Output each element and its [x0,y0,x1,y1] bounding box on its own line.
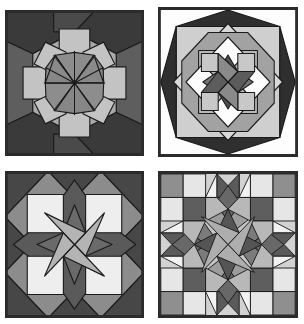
quilt-art-3 [5,171,144,318]
quilt-block-lemoyne-star [5,171,144,318]
quilt-block-carpenters-wheel [158,7,298,157]
quilt-block-gallery [0,0,304,324]
quilt-block-broken-star [158,171,298,318]
quilt-block-dutch-rose-pinwheel [5,10,144,156]
quilt-art-1 [5,10,144,156]
quilt-art-4 [158,171,298,318]
quilt-art-2 [158,7,298,157]
